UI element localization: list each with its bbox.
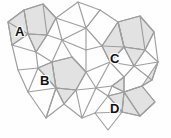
region-label-a: A (15, 25, 24, 38)
tessellation-figure: A B C D (0, 0, 171, 138)
tessellation-svg (0, 0, 171, 138)
region-label-b: B (40, 74, 49, 87)
region-label-c: C (110, 52, 119, 65)
region-label-d: D (110, 102, 119, 115)
